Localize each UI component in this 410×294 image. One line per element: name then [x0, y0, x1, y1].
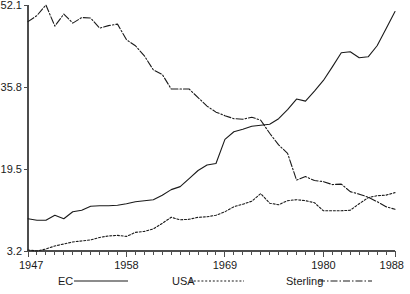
x-tick-label: 1969	[213, 259, 237, 271]
chart-background	[0, 0, 410, 294]
x-tick-label: 1980	[311, 259, 335, 271]
y-tick-label: 19.5	[1, 163, 22, 175]
x-tick-label: 1988	[380, 259, 404, 271]
legend-label-ec: EC	[58, 275, 73, 287]
y-tick-label: 52.1	[1, 0, 22, 11]
x-tick-label: 1947	[19, 259, 43, 271]
legend-label-sterling: Sterling	[286, 275, 323, 287]
line-chart: 3.219.535.852.1 19471958196919801988 ECU…	[0, 0, 410, 294]
chart-canvas: 3.219.535.852.1 19471958196919801988 ECU…	[0, 0, 410, 294]
y-tick-label: 35.8	[1, 81, 22, 93]
x-tick-label: 1958	[114, 259, 138, 271]
y-tick-label: 3.2	[7, 245, 22, 257]
